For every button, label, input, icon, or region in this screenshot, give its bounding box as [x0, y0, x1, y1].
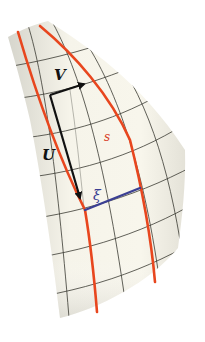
label-u: U — [42, 146, 56, 164]
label-s: s — [104, 130, 110, 144]
surface-diagram: V U s ξ — [0, 0, 205, 342]
label-xi: ξ — [93, 187, 102, 203]
label-v: V — [54, 66, 67, 84]
surface-patch — [8, 21, 185, 318]
